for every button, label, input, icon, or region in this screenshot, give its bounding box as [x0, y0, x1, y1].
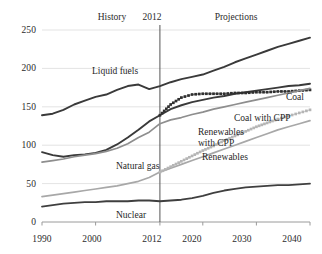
chart-figure: 250 200 150 100 50 0 1990 2000 2012 2020… — [0, 0, 322, 254]
series-line — [42, 38, 310, 116]
y-tick-label-50: 50 — [6, 179, 36, 189]
series-label-liquid-fuels: Liquid fuels — [92, 66, 138, 77]
series-marker — [201, 92, 204, 95]
series-marker — [216, 92, 219, 95]
series-label-renewables-with-cpp-line2: with CPP — [198, 138, 234, 148]
series-marker — [212, 92, 215, 95]
period-label-projections: Projections — [198, 12, 274, 22]
series-marker — [234, 92, 237, 95]
series-marker — [187, 94, 190, 97]
series-marker — [204, 148, 207, 151]
series-marker — [273, 90, 276, 93]
series-marker — [258, 124, 261, 127]
y-tick-label-150: 150 — [6, 102, 36, 112]
series-marker — [172, 101, 175, 104]
series-marker — [260, 124, 263, 127]
series-marker — [196, 152, 199, 155]
series-marker — [191, 93, 194, 96]
y-tick-label-200: 200 — [6, 63, 36, 73]
series-line — [42, 88, 310, 162]
series-marker — [193, 153, 196, 156]
series-marker — [167, 167, 170, 170]
series-marker — [164, 168, 167, 171]
series-marker — [198, 93, 201, 96]
series-marker — [183, 159, 186, 162]
series-marker — [244, 92, 247, 95]
series-label-renewables: Renewables — [202, 152, 248, 163]
series-marker — [237, 92, 240, 95]
series-label-coal-with-cpp: Coal with CPP — [234, 113, 291, 124]
series-marker — [291, 114, 294, 117]
chart-plot-area — [0, 0, 322, 254]
series-marker — [230, 92, 233, 95]
series-label-nuclear: Nuclear — [116, 210, 146, 221]
series-label-renewables-with-cpp-line1: Renewables — [198, 127, 244, 137]
x-tick-label-2012: 2012 — [132, 234, 172, 244]
x-tick-label-2000: 2000 — [72, 234, 112, 244]
series-marker — [226, 92, 229, 95]
series-line — [42, 184, 310, 207]
series-marker — [305, 110, 308, 113]
series-marker — [262, 91, 265, 94]
series-marker — [169, 165, 172, 168]
series-marker — [180, 96, 183, 99]
series-marker — [194, 93, 197, 96]
series-marker — [298, 112, 301, 115]
series-marker — [184, 95, 187, 98]
series-marker — [169, 103, 172, 106]
series-marker — [161, 169, 164, 172]
series-natural-gas — [42, 88, 310, 162]
series-marker — [177, 161, 180, 164]
series-label-natural-gas: Natural gas — [116, 161, 160, 172]
series-marker — [280, 90, 283, 93]
series-marker — [185, 157, 188, 160]
series-nuclear — [42, 184, 310, 207]
series-marker — [175, 163, 178, 166]
series-marker — [276, 90, 279, 93]
series-marker — [248, 91, 251, 94]
series-marker — [266, 91, 269, 94]
period-label-divider-year: 2012 — [132, 12, 172, 22]
x-tick-label-2020: 2020 — [172, 234, 212, 244]
series-marker — [294, 113, 297, 116]
series-marker — [309, 109, 312, 112]
series-marker — [205, 92, 208, 95]
series-marker — [223, 92, 226, 95]
x-tick-label-2030: 2030 — [222, 234, 262, 244]
y-tick-label-0: 0 — [6, 217, 36, 227]
y-tick-label-250: 250 — [6, 25, 36, 35]
series-marker — [172, 164, 175, 167]
x-tick-label-2040: 2040 — [272, 234, 312, 244]
series-marker — [175, 100, 178, 103]
series-marker — [219, 92, 222, 95]
series-marker — [255, 91, 258, 94]
series-marker — [269, 91, 272, 94]
series-label-renewables-with-cpp: Renewables with CPP — [198, 127, 256, 148]
series-marker — [209, 92, 212, 95]
series-label-coal: Coal — [286, 92, 304, 103]
x-tick-label-1990: 1990 — [22, 234, 62, 244]
y-tick-label-100: 100 — [6, 140, 36, 150]
series-marker — [241, 92, 244, 95]
series-marker — [188, 156, 191, 159]
series-marker — [191, 155, 194, 158]
series-marker — [177, 98, 180, 101]
series-marker — [302, 111, 305, 114]
series-liquid-fuels — [42, 38, 310, 116]
series-marker — [259, 91, 262, 94]
series-marker — [180, 160, 183, 163]
series-marker — [251, 91, 254, 94]
